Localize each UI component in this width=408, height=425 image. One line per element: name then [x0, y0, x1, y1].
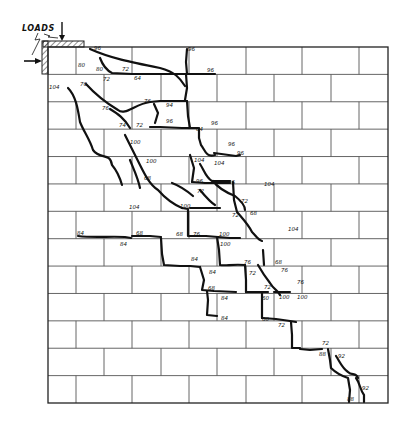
crack-line — [100, 58, 215, 74]
load-value-label: 64 — [134, 75, 141, 81]
load-value-label: 80 — [96, 66, 103, 72]
crack-line — [258, 265, 280, 295]
crack-line — [172, 183, 193, 196]
load-value-label: 72 — [278, 322, 285, 328]
crack-pattern-diagram: LOADS 9680807272649696104767674727694966… — [0, 0, 408, 425]
load-value-label: 100 — [146, 158, 157, 164]
loading-plate — [42, 41, 84, 74]
side-bearing-plate — [42, 41, 48, 74]
crack-line — [200, 164, 230, 181]
load-value-label: 72 — [232, 212, 239, 218]
load-value-label: 94 — [166, 102, 173, 108]
load-value-label: 84 — [77, 230, 84, 236]
load-value-label: 76 — [244, 259, 251, 265]
load-value-label: 72 — [103, 76, 110, 82]
load-value-label: 100 — [279, 294, 290, 300]
load-value-label: 72 — [249, 270, 256, 276]
load-value-label: 96 — [207, 67, 214, 73]
load-value-label: 88 — [319, 351, 326, 357]
crack-line — [180, 266, 200, 267]
load-value-label: 92 — [338, 353, 345, 359]
crack-line — [78, 236, 131, 238]
load-value-label: 72 — [264, 284, 271, 290]
crack-line — [186, 49, 187, 74]
crack-line — [291, 322, 300, 348]
load-value-label: 68 — [136, 230, 143, 236]
crack-line — [200, 267, 236, 292]
crack-line — [132, 236, 161, 237]
loads-label: LOADS — [22, 24, 55, 33]
load-value-label: 80 — [78, 62, 85, 68]
crack-line — [154, 104, 158, 123]
load-value-label: 72 — [122, 66, 129, 72]
top-bearing-plate — [43, 41, 84, 47]
load-value-label: 68 — [275, 259, 282, 265]
leader-line-side — [32, 33, 40, 55]
load-value-label: 60 — [262, 295, 269, 301]
load-value-label: 84 — [221, 295, 228, 301]
load-value-label: 96 — [237, 150, 244, 156]
load-value-label: 72 — [136, 122, 143, 128]
load-value-label: 76 — [144, 98, 151, 104]
load-value-label: 100 — [180, 203, 191, 209]
load-value-label: 72 — [322, 340, 329, 346]
crack-line — [213, 181, 245, 210]
load-value-label: 104 — [49, 84, 60, 90]
diagram-canvas: LOADS 9680807272649696104767674727694966… — [0, 0, 408, 425]
load-value-label: 100 — [130, 139, 141, 145]
load-value-label: 60 — [262, 316, 269, 322]
load-value-label: 104 — [214, 160, 225, 166]
crack-line — [150, 127, 198, 128]
load-value-label: 68 — [250, 210, 257, 216]
load-value-label: 88 — [347, 396, 354, 402]
crack-line — [300, 349, 322, 350]
load-value-label: 74 — [119, 122, 126, 128]
load-value-label: 84 — [120, 241, 127, 247]
load-value-label: 96 — [211, 120, 218, 126]
load-value-label: 84 — [221, 315, 228, 321]
load-value-label: 104 — [129, 204, 140, 210]
crack-line — [187, 101, 190, 128]
load-value-label: 96 — [94, 45, 101, 51]
load-value-label: 96 — [188, 46, 195, 52]
load-value-label: 72 — [197, 188, 204, 194]
load-value-label: 64 — [196, 126, 203, 132]
load-value-label: 100 — [297, 294, 308, 300]
brick-grid — [48, 47, 388, 403]
load-value-label: 96 — [166, 118, 173, 124]
load-value-label: 92 — [362, 385, 369, 391]
load-value-label: 96 — [228, 141, 235, 147]
crack-line — [161, 238, 180, 266]
down-arrow-icon — [59, 35, 65, 41]
wall-outline — [48, 47, 388, 403]
load-value-label: 72 — [241, 198, 248, 204]
crack-line — [245, 265, 246, 292]
load-value-label: 76 — [281, 267, 288, 273]
load-value-label: 76 — [193, 231, 200, 237]
load-value-label: 104 — [194, 157, 205, 163]
load-value-label: 104 — [288, 226, 299, 232]
load-value-label: 76 — [80, 81, 87, 87]
load-value-label: 68 — [208, 285, 215, 291]
load-value-label: 76 — [297, 279, 304, 285]
load-value-label: 100 — [220, 241, 231, 247]
load-value-label: 84 — [191, 256, 198, 262]
right-arrow-icon — [35, 58, 42, 64]
crack-line — [263, 250, 264, 265]
load-value-label: 96 — [196, 178, 203, 184]
load-value-label: 68 — [144, 175, 151, 181]
load-value-label: 76 — [102, 105, 109, 111]
load-value-label: 84 — [209, 269, 216, 275]
load-value-label: 104 — [264, 181, 275, 187]
load-value-label: 96 — [228, 179, 235, 185]
load-value-label: 68 — [176, 231, 183, 237]
load-value-label: 100 — [219, 231, 230, 237]
crack-line — [199, 128, 215, 156]
crack-line — [207, 291, 217, 316]
leader-line-top — [44, 34, 58, 38]
